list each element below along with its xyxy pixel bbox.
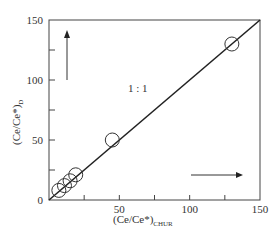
data-point	[105, 133, 119, 147]
data-point	[69, 168, 83, 182]
svg-text:150: 150	[27, 14, 44, 26]
one-to-one-line	[49, 20, 260, 200]
right-arrow-icon	[191, 172, 243, 178]
svg-text:100: 100	[181, 203, 198, 215]
y-axis-label: (Ce/Ce*)D	[10, 100, 25, 145]
x-axis-label: (Ce/Ce*)CHUR	[113, 213, 173, 228]
svg-text:100: 100	[27, 74, 44, 86]
svg-text:150: 150	[252, 203, 269, 215]
up-arrow-icon	[64, 30, 70, 80]
scatter-chart: 50100150050100150 1 : 1 (Ce/Ce*)CHUR (Ce…	[0, 0, 270, 241]
svg-text:0: 0	[38, 194, 44, 206]
svg-text:50: 50	[32, 134, 44, 146]
one-to-one-label: 1 : 1	[128, 82, 148, 94]
